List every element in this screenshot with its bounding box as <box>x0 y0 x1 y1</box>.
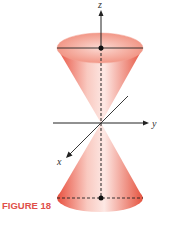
double-cone-figure: z y x <box>0 0 174 227</box>
y-axis: y <box>53 118 157 129</box>
z-arrow-icon <box>99 10 104 16</box>
y-arrow-icon <box>143 121 149 126</box>
z-axis-label: z <box>97 0 102 10</box>
x-axis-label: x <box>56 156 62 167</box>
top-center-dot <box>99 46 104 51</box>
bottom-center-dot <box>99 196 104 201</box>
figure-caption: FIGURE 18 <box>2 200 51 211</box>
y-axis-label: y <box>151 118 157 129</box>
